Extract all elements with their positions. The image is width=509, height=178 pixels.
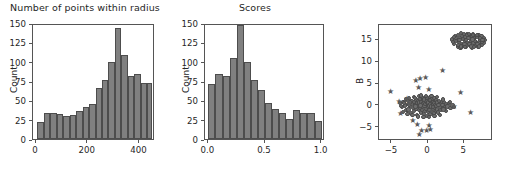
x-tick-label: 0.0: [189, 145, 225, 155]
x-tick-label: −5: [373, 145, 409, 155]
x-tick-label: 1.0: [303, 145, 339, 155]
scatter-point-marker: [438, 113, 442, 117]
scatter-point-marker: [435, 95, 439, 99]
scatter-point-marker: [477, 44, 481, 48]
histogram-bar: [147, 83, 152, 139]
scatter-point-marker: [457, 38, 461, 42]
y-tick-label: 0: [170, 135, 198, 145]
tick-mark: [138, 140, 139, 143]
tick-mark: [29, 24, 32, 25]
scatter-star-marker: ★: [450, 103, 457, 111]
y-tick-label: 5: [344, 78, 372, 88]
scatter-point-marker: [436, 103, 440, 107]
x-tick-label: 400: [120, 145, 156, 155]
plot-area: [204, 24, 324, 140]
histogram-bar: [223, 76, 230, 139]
y-tick-label: −5: [344, 122, 372, 132]
y-tick-label: 25: [0, 116, 26, 126]
scatter-point-marker: [471, 33, 475, 37]
tick-mark: [375, 39, 378, 40]
tick-mark: [29, 82, 32, 83]
y-tick-label: 15: [344, 34, 372, 44]
scatter-star-marker: ★: [439, 67, 446, 75]
tick-mark: [463, 140, 464, 143]
tick-mark: [375, 126, 378, 127]
subplot-scores: Scores Count 02550751001251500.00.51.0: [170, 0, 340, 178]
y-tick-label: 0: [0, 135, 26, 145]
tick-mark: [201, 62, 204, 63]
scatter-star-marker: ★: [426, 122, 433, 130]
histogram-bar: [265, 103, 272, 139]
histogram-bar: [208, 84, 215, 139]
panel-title: Number of points within radius: [0, 2, 170, 13]
scatter-point-marker: [441, 107, 445, 111]
histogram-bar: [237, 25, 244, 139]
scatter-point-marker: [464, 38, 468, 42]
tick-mark: [427, 140, 428, 143]
x-tick-label: 0: [409, 145, 445, 155]
scatter-point-marker: [416, 114, 420, 118]
histogram-bars: [33, 25, 153, 139]
scatter-star-marker: ★: [428, 108, 435, 116]
tick-mark: [201, 140, 204, 141]
scatter-point-marker: [422, 97, 426, 101]
histogram-bars: [205, 25, 323, 139]
scatter-point-marker: [472, 45, 476, 49]
histogram-bar: [258, 90, 265, 139]
tick-mark: [320, 140, 321, 143]
scatter-point-marker: [418, 103, 422, 107]
subplot-points-within-radius: Number of points within radius Count 025…: [0, 0, 170, 178]
tick-mark: [29, 140, 32, 141]
scatter-point-marker: [421, 115, 425, 119]
histogram-bar: [272, 109, 279, 139]
histogram-bar: [315, 121, 322, 139]
y-tick-label: 125: [0, 38, 26, 48]
matplotlib-figure: Number of points within radius Count 025…: [0, 0, 509, 178]
scatter-star-marker: ★: [404, 95, 411, 103]
scatter-point-marker: [413, 96, 417, 100]
tick-mark: [375, 83, 378, 84]
tick-mark: [201, 43, 204, 44]
y-tick-label: 150: [0, 19, 26, 29]
tick-mark: [375, 61, 378, 62]
histogram-bar: [244, 62, 251, 139]
tick-mark: [201, 101, 204, 102]
histogram-bar: [279, 113, 286, 139]
tick-mark: [201, 24, 204, 25]
tick-mark: [390, 140, 391, 143]
histogram-bar: [251, 80, 258, 139]
x-tick-label: 0: [17, 145, 53, 155]
scatter-star-marker: ★: [422, 74, 429, 82]
tick-mark: [264, 140, 265, 143]
histogram-bar: [215, 74, 222, 139]
y-tick-label: 75: [170, 77, 198, 87]
scatter-star-marker: ★: [457, 89, 464, 97]
y-tick-label: 10: [344, 56, 372, 66]
plot-area: [32, 24, 154, 140]
plot-area: ★★★★★★★★★★★★★★★★★★★★★★: [378, 24, 492, 140]
panel-title: Scores: [170, 2, 340, 13]
x-tick-label: 0.5: [246, 145, 282, 155]
y-tick-label: 100: [170, 58, 198, 68]
x-tick-label: 5: [445, 145, 481, 155]
tick-mark: [29, 43, 32, 44]
scatter-point-marker: [413, 104, 417, 108]
scatter-star-marker: ★: [425, 86, 432, 94]
histogram-bar: [230, 58, 237, 139]
y-tick-label: 125: [170, 38, 198, 48]
histogram-bar: [300, 113, 307, 139]
y-tick-label: 0: [344, 100, 372, 110]
scatter-point-marker: [441, 97, 445, 101]
subplot-scatter-b: B ★★★★★★★★★★★★★★★★★★★★★★ −5051015−505: [340, 0, 509, 178]
tick-mark: [35, 140, 36, 143]
tick-mark: [29, 101, 32, 102]
y-tick-label: 100: [0, 58, 26, 68]
tick-mark: [207, 140, 208, 143]
tick-mark: [29, 120, 32, 121]
scatter-star-marker: ★: [397, 110, 404, 118]
scatter-point-marker: [475, 33, 479, 37]
y-tick-label: 75: [0, 77, 26, 87]
y-tick-label: 25: [170, 116, 198, 126]
y-tick-label: 150: [170, 19, 198, 29]
scatter-star-marker: ★: [415, 84, 422, 92]
